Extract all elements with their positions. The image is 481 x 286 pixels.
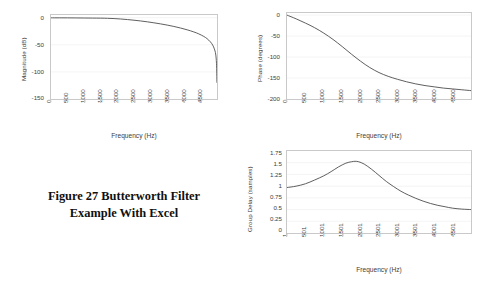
phase-x-tickmark-7	[416, 100, 417, 103]
magnitude-plot-svg	[51, 15, 217, 99]
magnitude-y-tick-3: -150	[22, 95, 44, 101]
group-delay-x-tickmark-9	[453, 234, 454, 237]
phase-plot-svg	[287, 13, 471, 99]
phase-x-tickmark-8	[435, 100, 436, 103]
phase-y-tick-4: -200	[258, 96, 280, 102]
group-delay-y-tick-0: 1.75	[256, 150, 282, 156]
magnitude-x-tickmark-9	[201, 100, 202, 103]
magnitude-plot-area	[50, 14, 218, 100]
group-delay-x-tickmark-0	[286, 234, 287, 237]
phase-x-tickmark-3	[342, 100, 343, 103]
magnitude-y-axis-label: Magnitude (dB)	[20, 22, 27, 96]
group-delay-y-tick-7: 0	[256, 227, 282, 233]
magnitude-gridlines	[51, 18, 217, 72]
phase-x-tickmark-5	[379, 100, 380, 103]
phase-chart: Phase (degrees) 0 -50 -100 -150 -200 050…	[250, 2, 478, 142]
group-delay-y-tick-3: 1	[256, 183, 282, 189]
group-delay-chart: Group Delay (samples) 1.75 1.5 1.25 1 0.…	[244, 146, 478, 284]
phase-x-tickmark-4	[360, 100, 361, 103]
phase-plot-area	[286, 12, 472, 100]
magnitude-x-tickmark-0	[50, 100, 51, 103]
group-delay-x-tickmark-7	[416, 234, 417, 237]
group-delay-y-tick-6: 0.25	[256, 216, 282, 222]
group-delay-plot-area	[286, 150, 472, 234]
group-delay-y-tick-2: 1.25	[256, 172, 282, 178]
magnitude-curve	[51, 18, 217, 83]
group-delay-gridlines	[287, 163, 471, 222]
group-delay-plot-svg	[287, 151, 471, 233]
phase-y-tick-1: -50	[258, 33, 280, 39]
phase-x-axis-label: Frequency (Hz)	[286, 132, 472, 139]
magnitude-x-tickmark-2	[84, 100, 85, 103]
magnitude-x-tickmark-1	[67, 100, 68, 103]
group-delay-x-tickmark-2	[323, 234, 324, 237]
phase-x-tickmark-9	[453, 100, 454, 103]
figure-caption-line-1: Figure 27 Butterworth Filter	[8, 188, 240, 205]
figure-caption: Figure 27 Butterworth Filter Example Wit…	[8, 188, 240, 222]
magnitude-y-tick-2: -100	[22, 69, 44, 75]
figure-caption-line-2: Example With Excel	[8, 205, 240, 222]
group-delay-x-tickmark-8	[435, 234, 436, 237]
magnitude-y-tick-1: -50	[22, 42, 44, 48]
group-delay-x-tickmark-1	[305, 234, 306, 237]
phase-x-tickmark-6	[398, 100, 399, 103]
group-delay-y-tick-4: 0.75	[256, 194, 282, 200]
phase-x-tickmark-0	[286, 100, 287, 103]
group-delay-y-tick-1: 1.5	[256, 161, 282, 167]
group-delay-x-axis-label: Frequency (Hz)	[286, 266, 472, 273]
magnitude-x-tickmark-3	[100, 100, 101, 103]
group-delay-y-axis-label: Group Delay (samples)	[246, 152, 253, 246]
magnitude-x-tickmark-8	[184, 100, 185, 103]
magnitude-chart: Magnitude (dB) 0 -50 -100 -150 050010001…	[8, 4, 236, 144]
phase-curve	[287, 15, 471, 91]
magnitude-x-axis-label: Frequency (Hz)	[50, 132, 218, 139]
group-delay-x-tickmark-5	[379, 234, 380, 237]
magnitude-x-tickmark-4	[117, 100, 118, 103]
magnitude-y-tick-0: 0	[22, 15, 44, 21]
phase-gridlines	[287, 15, 471, 78]
phase-x-tickmark-2	[323, 100, 324, 103]
magnitude-x-tickmark-6	[151, 100, 152, 103]
phase-y-tick-0: 0	[258, 12, 280, 18]
group-delay-curve	[287, 161, 471, 209]
phase-y-tick-2: -100	[258, 54, 280, 60]
group-delay-y-tick-5: 0.5	[256, 205, 282, 211]
phase-y-tick-3: -150	[258, 75, 280, 81]
group-delay-x-tickmark-6	[398, 234, 399, 237]
magnitude-x-tickmark-5	[134, 100, 135, 103]
group-delay-x-tickmark-4	[360, 234, 361, 237]
phase-x-tickmark-1	[305, 100, 306, 103]
group-delay-x-tickmark-3	[342, 234, 343, 237]
magnitude-x-tickmark-7	[168, 100, 169, 103]
